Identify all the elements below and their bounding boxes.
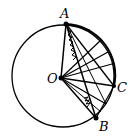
label-o: O <box>47 71 58 86</box>
point-a <box>64 22 69 27</box>
point-c <box>112 84 116 88</box>
segment-ob <box>61 78 96 118</box>
label-a: A <box>59 6 69 21</box>
segment-cb <box>96 86 114 118</box>
point-b <box>94 116 99 121</box>
segment-oa <box>61 24 66 78</box>
label-c: C <box>117 80 127 95</box>
geometry-diagram: A O C B <box>0 0 130 136</box>
point-o <box>59 76 64 81</box>
label-b: B <box>98 119 109 134</box>
